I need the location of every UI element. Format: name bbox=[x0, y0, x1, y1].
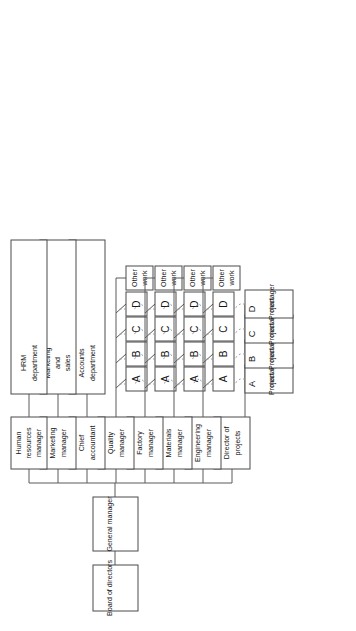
director-of-projects-line2: projects bbox=[234, 430, 242, 455]
human-resources-manager-line2: resources bbox=[25, 427, 33, 459]
cell-engineering-c[interactable]: C bbox=[213, 317, 234, 341]
dash-d-eng-low bbox=[234, 304, 245, 309]
cell-factory-a-label: A bbox=[160, 375, 171, 382]
human-resources-manager-line1: Human bbox=[15, 432, 23, 455]
cell-factory-c[interactable]: C bbox=[155, 317, 176, 341]
cell-materials-a[interactable]: A bbox=[184, 367, 205, 391]
board-label-line1: Board of directors bbox=[106, 560, 114, 616]
chief-accountant-line2: accountant bbox=[89, 426, 97, 461]
cell-engineering-d-label: D bbox=[218, 300, 229, 307]
human-resources-manager-line3: manager bbox=[35, 428, 43, 457]
cell-engineering-c-label: C bbox=[218, 325, 229, 332]
accounts-department-line1: Accounts bbox=[78, 348, 86, 378]
engineering-other-work-line2: work bbox=[228, 270, 236, 286]
materials-manager-line2: manager bbox=[176, 428, 184, 457]
cell-factory-b[interactable]: B bbox=[155, 342, 176, 366]
cell-engineering-a-label: A bbox=[218, 375, 229, 382]
matrix-row-quality: A B C D Other work bbox=[116, 266, 153, 417]
node-hrm-department[interactable]: HRM department bbox=[11, 240, 47, 394]
materials-other-work-line1: Other bbox=[189, 268, 197, 286]
org-chart-svg: Board of directors General manager Direc… bbox=[0, 0, 356, 631]
cell-engineering-a[interactable]: A bbox=[213, 367, 234, 391]
project-manager-a-letter: A bbox=[247, 380, 257, 387]
marketing-and-sales-line2: and bbox=[54, 357, 62, 369]
project-manager-d-role-line2: manager bbox=[268, 283, 276, 312]
materials-manager-line1: Materials bbox=[165, 428, 173, 457]
dash-c-eng-low bbox=[234, 329, 245, 334]
cell-factory-d[interactable]: D bbox=[155, 292, 176, 316]
project-manager-d-letter: D bbox=[247, 305, 257, 312]
dash-a-eng-low bbox=[234, 379, 245, 384]
cell-quality-a-label: A bbox=[131, 375, 142, 382]
cell-engineering-b[interactable]: B bbox=[213, 342, 234, 366]
node-human-resources-manager[interactable]: Human resources manager bbox=[11, 417, 47, 469]
node-board-of-directors[interactable]: Board of directors bbox=[93, 560, 138, 616]
cell-quality-d-label: D bbox=[131, 300, 142, 307]
cell-quality-b-label: B bbox=[131, 350, 142, 357]
cell-materials-c[interactable]: C bbox=[184, 317, 205, 341]
cell-factory-a[interactable]: A bbox=[155, 367, 176, 391]
hrm-department-line1: HRM bbox=[20, 355, 28, 371]
cell-quality-a[interactable]: A bbox=[126, 367, 147, 391]
node-engineering-other-work[interactable]: Other work bbox=[213, 266, 240, 290]
department-links bbox=[29, 394, 87, 417]
cell-quality-c[interactable]: C bbox=[126, 317, 147, 341]
cell-materials-b[interactable]: B bbox=[184, 342, 205, 366]
dash-b-eng-low bbox=[234, 354, 245, 359]
project-manager-b-letter: B bbox=[247, 356, 257, 362]
marketing-and-sales-line3: sales bbox=[64, 354, 72, 371]
engineering-manager-line2: manager bbox=[205, 428, 213, 457]
node-project-manager-d[interactable]: D Project manager bbox=[245, 283, 293, 320]
marketing-manager-line2: manager bbox=[60, 428, 68, 457]
factory-manager-line1: Factory bbox=[136, 431, 144, 455]
quality-manager-line1: Quality bbox=[107, 432, 115, 455]
cell-materials-b-label: B bbox=[189, 350, 200, 357]
factory-other-work-line1: Other bbox=[160, 268, 168, 286]
director-of-projects-line1: Director of bbox=[223, 427, 231, 460]
gm-label: General manager bbox=[106, 496, 114, 552]
accounts-department-line2: department bbox=[89, 345, 97, 381]
node-general-manager[interactable]: General manager bbox=[93, 496, 138, 552]
project-manager-c-letter: C bbox=[247, 330, 257, 337]
cell-materials-d-label: D bbox=[189, 300, 200, 307]
cell-quality-d[interactable]: D bbox=[126, 292, 147, 316]
factory-manager-line2: manager bbox=[147, 428, 155, 457]
cell-materials-d[interactable]: D bbox=[184, 292, 205, 316]
engineering-manager-line1: Engineering bbox=[194, 424, 202, 462]
quality-other-work-line1: Other bbox=[131, 268, 139, 286]
cell-quality-c-label: C bbox=[131, 325, 142, 332]
cell-engineering-b-label: B bbox=[218, 350, 229, 357]
hrm-department-line2: department bbox=[31, 345, 39, 381]
org-chart-container: Board of directors General manager Direc… bbox=[0, 0, 356, 631]
cell-engineering-d[interactable]: D bbox=[213, 292, 234, 316]
engineering-other-work-line1: Other bbox=[218, 268, 226, 286]
quality-manager-line2: manager bbox=[118, 428, 126, 457]
cell-factory-b-label: B bbox=[160, 350, 171, 357]
marketing-manager-line1: Marketing bbox=[49, 427, 57, 458]
cell-factory-c-label: C bbox=[160, 325, 171, 332]
cell-materials-c-label: C bbox=[189, 325, 200, 332]
chief-accountant-line1: Chief bbox=[78, 435, 86, 452]
cell-materials-a-label: A bbox=[189, 375, 200, 382]
cell-quality-b[interactable]: B bbox=[126, 342, 147, 366]
cell-factory-d-label: D bbox=[160, 300, 171, 307]
